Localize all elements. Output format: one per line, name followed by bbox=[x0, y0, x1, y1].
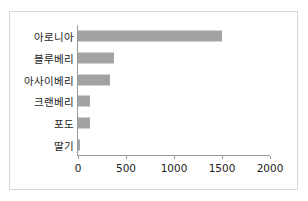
category-label: 딸기 bbox=[54, 138, 74, 153]
category-label: 블루베리 bbox=[34, 50, 74, 65]
category-label: 아사이베리 bbox=[24, 72, 74, 87]
chart-row: 아로니아 bbox=[0, 25, 308, 47]
x-axis-tick-label: 0 bbox=[75, 162, 82, 174]
bar[interactable] bbox=[78, 52, 114, 63]
bar[interactable] bbox=[78, 74, 110, 85]
bar[interactable] bbox=[78, 30, 222, 41]
category-label: 아로니아 bbox=[34, 28, 74, 43]
x-axis-tick-label: 1000 bbox=[161, 162, 188, 174]
category-label: 크랜베리 bbox=[34, 94, 74, 109]
bar[interactable] bbox=[78, 140, 80, 151]
x-axis-tick bbox=[174, 156, 175, 159]
chart-row: 딸기 bbox=[0, 134, 308, 156]
chart-figure: 0500100015002000아로니아블루베리아사이베리크랜베리포도딸기 bbox=[0, 0, 308, 201]
plot-area: 0500100015002000아로니아블루베리아사이베리크랜베리포도딸기 bbox=[0, 0, 308, 201]
x-axis-tick-label: 500 bbox=[116, 162, 136, 174]
chart-row: 아사이베리 bbox=[0, 69, 308, 91]
category-label: 포도 bbox=[54, 116, 74, 131]
chart-row: 포도 bbox=[0, 112, 308, 134]
x-axis-tick bbox=[270, 156, 271, 159]
x-axis-tick-label: 1500 bbox=[209, 162, 236, 174]
x-axis-tick-label: 2000 bbox=[257, 162, 284, 174]
chart-row: 블루베리 bbox=[0, 47, 308, 69]
x-axis-tick bbox=[78, 156, 79, 159]
x-axis-tick bbox=[222, 156, 223, 159]
x-axis-tick bbox=[126, 156, 127, 159]
bar[interactable] bbox=[78, 118, 90, 129]
chart-row: 크랜베리 bbox=[0, 91, 308, 113]
bar[interactable] bbox=[78, 96, 90, 107]
